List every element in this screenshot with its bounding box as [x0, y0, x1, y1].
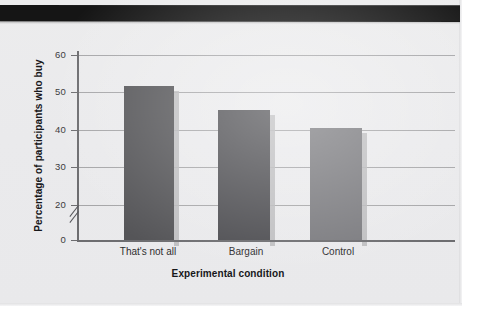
bar-fill [310, 128, 362, 241]
plot-area [78, 55, 455, 241]
x-axis-title: Experimental condition [78, 268, 378, 279]
y-tick-0 [71, 240, 78, 241]
y-axis-title: Percentage of participants who buy [33, 46, 44, 246]
bar-fill [218, 110, 270, 241]
y-tick-label-40: 40 [48, 125, 66, 135]
bar-shadow [174, 91, 179, 246]
y-tick-label-60: 60 [48, 50, 66, 60]
y-tick-label-20: 20 [48, 200, 66, 210]
x-tick-label-control: Control [288, 246, 388, 258]
gridline-60 [78, 55, 455, 56]
bar-thats-not-all[interactable] [124, 86, 174, 241]
y-axis-break-icon [70, 210, 86, 232]
x-axis-line [77, 240, 455, 242]
bar-control[interactable] [310, 128, 362, 241]
y-tick-50 [71, 92, 78, 93]
bar-shadow [270, 115, 275, 246]
bar-bargain[interactable] [218, 110, 270, 241]
page-root: 60 50 40 30 20 0 That's not all Bargain … [0, 0, 487, 321]
y-tick-label-30: 30 [48, 162, 66, 172]
y-tick-label-0: 0 [48, 235, 66, 245]
bar-fill [124, 86, 174, 241]
x-tick-label-bargain: Bargain [196, 246, 296, 258]
y-tick-label-50: 50 [48, 87, 66, 97]
bar-chart: 60 50 40 30 20 0 That's not all Bargain … [0, 0, 462, 306]
y-tick-40 [71, 130, 78, 131]
y-tick-30 [71, 167, 78, 168]
y-tick-60 [71, 55, 78, 56]
bar-shadow [362, 133, 367, 246]
